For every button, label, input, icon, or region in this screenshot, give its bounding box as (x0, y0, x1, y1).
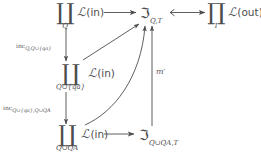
fraktur-i-top-mid: ℑQ,T (140, 5, 162, 21)
functor-top-right: ℒ(out) (228, 6, 261, 18)
inc-upper-name: inc (16, 42, 25, 49)
node-bottom-mid: ℑQ∪QA,T (139, 127, 178, 146)
coproduct-symbol-top-left: ∐ Q (56, 3, 74, 30)
commutative-diagram: ∐ Q ℒ(in) ℑQ,T ∏ T ℒ(out) ∐ Q∪{qa} ℒ(in)… (0, 0, 261, 157)
inc-lower-name: inc (3, 104, 12, 111)
subscript-top-mid: Q,T (150, 17, 162, 25)
node-top-left: ∐ Q ℒ(in) (56, 2, 104, 29)
inc-upper-subscript: Q,Q∪{qa} (25, 45, 51, 51)
functor-mid-left: ℒ(in) (88, 67, 115, 79)
coproduct-symbol-mid-left: ∐ Q∪{qa} (56, 64, 85, 91)
edge-label-m-prime: m′ (156, 68, 165, 76)
edge-label-inc-lower: incQ∪{qa},Q∪QA (3, 105, 51, 113)
node-mid-left: ∐ Q∪{qa} ℒ(in) (56, 63, 115, 90)
functor-bottom-left: ℒ(in) (81, 128, 108, 140)
coproduct-limit-bottom-left: Q∪QA (56, 145, 78, 152)
subscript-bottom-mid: Q∪QA,T (149, 139, 178, 147)
fraktur-i-bottom-mid: ℑQ∪QA,T (139, 127, 178, 143)
node-bottom-left: ∐ Q∪QA ℒ(in) (56, 124, 108, 151)
coproduct-symbol-bottom-left: ∐ Q∪QA (56, 125, 78, 152)
edge-label-inc-upper: incQ,Q∪{qa} (16, 43, 51, 51)
functor-top-left: ℒ(in) (77, 6, 104, 18)
product-symbol-top-right: ∏ T (207, 3, 225, 30)
inc-lower-subscript: Q∪{qa},Q∪QA (12, 107, 50, 113)
arrow-midleft-to-topmid (83, 24, 139, 60)
coproduct-limit-mid-left: Q∪{qa} (56, 84, 85, 91)
node-top-mid: ℑQ,T (140, 5, 162, 24)
node-top-right: ∏ T ℒ(out) (207, 2, 261, 29)
